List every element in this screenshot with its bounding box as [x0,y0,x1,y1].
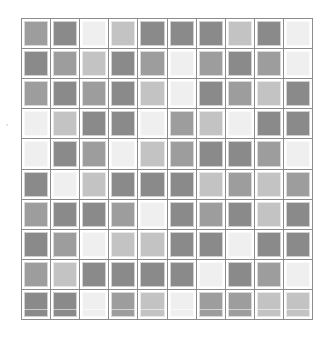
grid-cell[interactable] [138,139,166,168]
grid-cell[interactable] [138,260,166,289]
grid-cell[interactable] [109,139,137,168]
grid-cell[interactable] [22,200,50,229]
grid-cell[interactable] [109,170,137,199]
grid-cell[interactable] [226,109,254,138]
grid-cell[interactable] [80,49,108,78]
grid-cell[interactable] [109,19,137,48]
grid-cell[interactable] [255,79,283,108]
grid-cell[interactable] [255,170,283,199]
grid-cell[interactable] [284,49,312,78]
grid-cell[interactable] [22,170,50,199]
grid-cell[interactable] [168,230,196,259]
grid-cell[interactable] [255,260,283,289]
grid-cell[interactable] [197,230,225,259]
grid-cell[interactable] [22,139,50,168]
grid-cell[interactable] [197,200,225,229]
grid-cell[interactable] [284,230,312,259]
grid-cell[interactable] [51,260,79,289]
grid-cell[interactable] [138,200,166,229]
grid-cell[interactable] [22,290,50,319]
grid-cell[interactable] [168,79,196,108]
grid-cell[interactable] [255,139,283,168]
grid-cell[interactable] [226,49,254,78]
grid-cell[interactable] [197,49,225,78]
grid-cell[interactable] [197,79,225,108]
grid-cell[interactable] [80,79,108,108]
grid-cell[interactable] [168,109,196,138]
grid-cell[interactable] [168,260,196,289]
grid-cell[interactable] [284,290,312,319]
grid-cell[interactable] [226,170,254,199]
grid-cell[interactable] [51,49,79,78]
grid-cell[interactable] [138,109,166,138]
grid-cell[interactable] [168,200,196,229]
grid-cell[interactable] [255,200,283,229]
grid-cell[interactable] [22,260,50,289]
grid-cell[interactable] [197,260,225,289]
grid-cell[interactable] [168,19,196,48]
grid-cell[interactable] [109,200,137,229]
grid-cell[interactable] [51,200,79,229]
grid-cell[interactable] [197,170,225,199]
grid-cell[interactable] [255,19,283,48]
grid-cell[interactable] [22,19,50,48]
grid-cell[interactable] [226,260,254,289]
grid-cell[interactable] [22,79,50,108]
grid-cell[interactable] [255,290,283,319]
grid-cell[interactable] [197,139,225,168]
grid-cell[interactable] [138,170,166,199]
grid-cell[interactable] [226,200,254,229]
grid-cell[interactable] [168,290,196,319]
grid-cell[interactable] [284,79,312,108]
grid-cell[interactable] [51,170,79,199]
grid-cell[interactable] [197,290,225,319]
grid-cell[interactable] [80,290,108,319]
grid-cell[interactable] [80,19,108,48]
grid-cell[interactable] [226,139,254,168]
grid-cell[interactable] [284,260,312,289]
grid-cell[interactable] [226,290,254,319]
grid-cell[interactable] [109,49,137,78]
grid-cell[interactable] [109,230,137,259]
grid-cell[interactable] [226,230,254,259]
grid-cell[interactable] [138,290,166,319]
grid-cell[interactable] [109,290,137,319]
grid-cell[interactable] [284,109,312,138]
grid-cell[interactable] [284,139,312,168]
grid-cell[interactable] [51,109,79,138]
grid-cell[interactable] [51,230,79,259]
grid-cell[interactable] [284,200,312,229]
grid-cell[interactable] [80,260,108,289]
grid-cell[interactable] [80,200,108,229]
grid-cell[interactable] [80,170,108,199]
grid-cell[interactable] [51,139,79,168]
grid-cell[interactable] [51,290,79,319]
grid-cell[interactable] [284,170,312,199]
grid-cell[interactable] [51,19,79,48]
grid-cell[interactable] [255,109,283,138]
grid-cell[interactable] [138,49,166,78]
grid-cell[interactable] [226,19,254,48]
grid-cell[interactable] [197,19,225,48]
grid-cell[interactable] [80,139,108,168]
grid-cell[interactable] [226,79,254,108]
grid-cell[interactable] [284,19,312,48]
grid-cell[interactable] [138,79,166,108]
grid-cell[interactable] [109,260,137,289]
grid-cell[interactable] [22,109,50,138]
grid-cell[interactable] [168,139,196,168]
grid-cell[interactable] [138,19,166,48]
grid-cell[interactable] [22,49,50,78]
grid-cell[interactable] [22,230,50,259]
grid-cell[interactable] [255,49,283,78]
grid-cell[interactable] [109,109,137,138]
grid-cell[interactable] [80,109,108,138]
grid-cell[interactable] [80,230,108,259]
grid-cell[interactable] [168,49,196,78]
grid-cell[interactable] [138,230,166,259]
grid-cell[interactable] [197,109,225,138]
grid-cell[interactable] [109,79,137,108]
grid-cell[interactable] [255,230,283,259]
grid-cell[interactable] [168,170,196,199]
grid-cell[interactable] [51,79,79,108]
